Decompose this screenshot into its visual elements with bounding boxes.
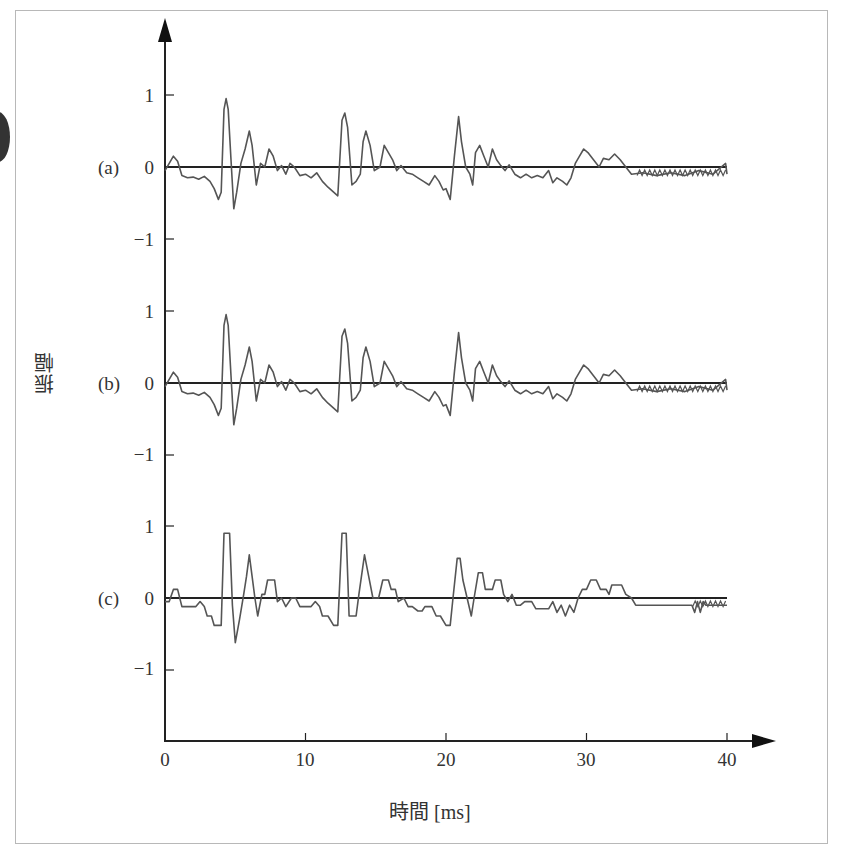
- waveform-trace-c: [165, 533, 727, 642]
- ytick-c-top: 1: [114, 517, 154, 536]
- ytick-a-zero: 0: [114, 158, 154, 177]
- waveform-traces: [165, 99, 727, 643]
- zero-baselines: [165, 167, 727, 598]
- ytick-c-zero: 0: [114, 589, 154, 608]
- ytick-b-bottom: −1: [114, 445, 154, 464]
- waveform-trace-b: [165, 315, 727, 425]
- axis-ticks: [165, 95, 727, 741]
- y-axis-label: 振幅: [30, 352, 59, 394]
- ytick-b-zero: 0: [114, 374, 154, 393]
- x-axis-arrow-icon: [752, 734, 776, 748]
- xtick-10: 10: [285, 750, 325, 769]
- y-axis-arrow-icon: [158, 18, 172, 42]
- ytick-c-bottom: −1: [114, 659, 154, 678]
- xtick-40: 40: [707, 750, 747, 769]
- xtick-0: 0: [145, 750, 185, 769]
- xtick-30: 30: [566, 750, 606, 769]
- ytick-b-top: 1: [114, 302, 154, 321]
- ytick-a-bottom: −1: [114, 230, 154, 249]
- waveform-plot: [0, 0, 843, 857]
- waveform-trace-a: [165, 99, 727, 209]
- xtick-20: 20: [426, 750, 466, 769]
- x-axis-label: 時間 [ms]: [389, 802, 471, 822]
- ytick-a-top: 1: [114, 86, 154, 105]
